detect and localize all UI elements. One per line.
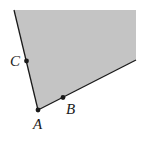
label-c: C (10, 53, 21, 69)
point-b (61, 95, 66, 100)
point-c (24, 59, 29, 64)
label-b: B (66, 101, 75, 117)
angle-diagram: C A B (0, 0, 145, 142)
shaded-angle-region (14, 10, 136, 110)
point-a (36, 108, 41, 113)
label-a: A (32, 116, 43, 132)
